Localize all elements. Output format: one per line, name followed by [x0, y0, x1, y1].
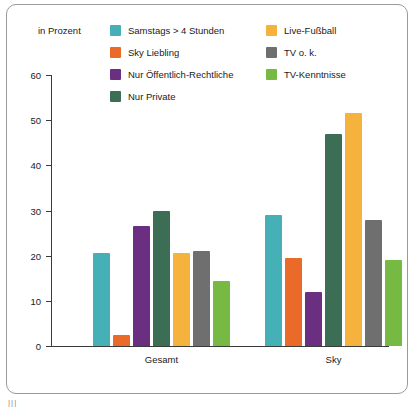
bar[interactable]	[325, 134, 342, 346]
legend-item[interactable]: Sky Liebling	[110, 41, 233, 63]
y-axis-tick	[46, 165, 51, 166]
y-axis-label: 40	[30, 160, 41, 171]
bar[interactable]	[285, 258, 302, 346]
unit-note: in Prozent	[38, 25, 81, 36]
chart-card: in Prozent Samstags > 4 Stunden Sky Lieb…	[6, 4, 408, 394]
plot-area: 0102030405060GesamtSky	[51, 75, 389, 347]
y-axis-tick	[46, 75, 51, 76]
y-axis-tick	[46, 256, 51, 257]
bar[interactable]	[93, 253, 110, 346]
y-axis-label: 30	[30, 205, 41, 216]
y-axis	[51, 75, 52, 347]
bar[interactable]	[153, 211, 170, 347]
y-axis-label: 10	[30, 295, 41, 306]
legend-swatch-sky-liebling	[110, 47, 121, 58]
y-axis-label: 50	[30, 115, 41, 126]
legend-label: Samstags > 4 Stunden	[128, 25, 224, 36]
bar[interactable]	[113, 335, 130, 346]
legend-swatch-tv-ok	[266, 47, 277, 58]
bar[interactable]	[265, 215, 282, 346]
bar[interactable]	[345, 113, 362, 346]
footer-mark: |||	[8, 398, 17, 407]
y-axis-label: 60	[30, 70, 41, 81]
legend-label: TV o. k.	[284, 47, 317, 58]
y-axis-tick	[46, 120, 51, 121]
bar[interactable]	[193, 251, 210, 346]
bar[interactable]	[365, 220, 382, 346]
y-axis-tick	[46, 211, 51, 212]
y-axis-tick	[46, 301, 51, 302]
y-axis-tick	[46, 346, 51, 347]
x-axis-group-label: Gesamt	[145, 354, 178, 365]
bar[interactable]	[385, 260, 402, 346]
legend-swatch-samstags	[110, 25, 121, 36]
legend-swatch-live-fussball	[266, 25, 277, 36]
y-axis-label: 0	[36, 341, 41, 352]
legend-item[interactable]: TV o. k.	[266, 41, 346, 63]
bar[interactable]	[133, 226, 150, 346]
legend-label: Sky Liebling	[128, 47, 179, 58]
legend-item[interactable]: Samstags > 4 Stunden	[110, 19, 233, 41]
y-axis-label: 20	[30, 250, 41, 261]
bar[interactable]	[173, 253, 190, 346]
x-axis-group-label: Sky	[326, 354, 342, 365]
legend-item[interactable]: Live-Fußball	[266, 19, 346, 41]
x-axis	[51, 346, 389, 347]
bar[interactable]	[213, 281, 230, 346]
legend-label: Live-Fußball	[284, 25, 336, 36]
bar[interactable]	[305, 292, 322, 346]
